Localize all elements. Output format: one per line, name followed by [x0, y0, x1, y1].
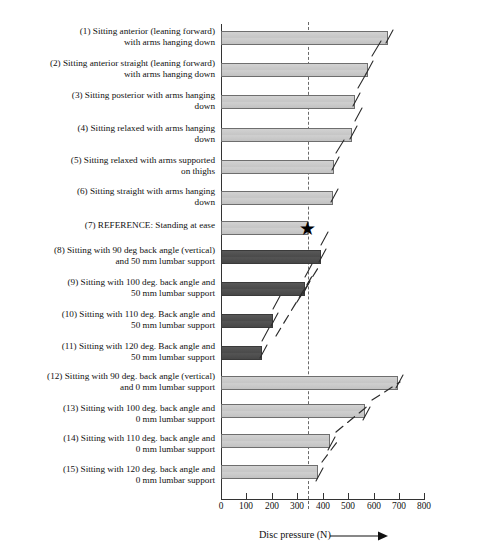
x-tick-label-800: 800	[409, 501, 439, 511]
bar-8[interactable]	[221, 250, 321, 264]
bar-row: (5) Sitting relaxed with arms supported …	[0, 155, 478, 185]
x-tick-100	[246, 493, 247, 499]
bar-label-11: (11) Sitting with 120 deg. Back angle an…	[4, 341, 215, 362]
bar-label-5-line2: on thighs	[4, 166, 215, 177]
x-tick-700	[399, 493, 400, 499]
bar-label-15: (15) Sitting with 120 deg. back angle an…	[4, 464, 215, 485]
bar-label-12-line1: (12) Sitting with 90 deg. back angle (ve…	[4, 371, 215, 382]
bar-14[interactable]	[221, 434, 330, 448]
bar-label-11-line1: (11) Sitting with 120 deg. Back angle an…	[4, 341, 215, 352]
bar-label-6-line1: (6) Sitting straight with arms hanging	[4, 186, 215, 197]
bar-row: (13) Sitting with 100 deg. back angle an…	[0, 403, 478, 433]
bar-label-15-line2: 0 mm lumbar support	[4, 475, 215, 486]
bar-row: (14) Sitting with 110 deg. back angle an…	[0, 433, 478, 463]
bar-label-4: (4) Sitting relaxed with arms hanging do…	[4, 123, 215, 144]
bar-label-5: (5) Sitting relaxed with arms supported …	[4, 155, 215, 176]
bar-label-13: (13) Sitting with 100 deg. back angle an…	[4, 403, 215, 424]
bar-row: (11) Sitting with 120 deg. Back angle an…	[0, 341, 478, 371]
bar-label-6: (6) Sitting straight with arms hanging d…	[4, 186, 215, 207]
reference-star-icon: ★	[299, 219, 316, 238]
bar-label-6-line2: down	[4, 197, 215, 208]
bar-row: (3) Sitting posterior with arms hanging …	[0, 90, 478, 120]
x-tick-600	[374, 493, 375, 499]
bar-label-13-line1: (13) Sitting with 100 deg. back angle an…	[4, 403, 215, 414]
bar-6[interactable]	[221, 191, 333, 205]
bar-label-8-line2: and 50 mm lumbar support	[4, 256, 215, 267]
bar-label-11-line2: 50 mm lumbar support	[4, 352, 215, 363]
bar-label-5-line1: (5) Sitting relaxed with arms supported	[4, 155, 215, 166]
bar-label-1: (1) Sitting anterior (leaning forward) w…	[4, 26, 215, 47]
bar-label-4-line2: down	[4, 134, 215, 145]
bar-row: (9) Sitting with 100 deg. back angle and…	[0, 277, 478, 307]
bar-label-14-line1: (14) Sitting with 110 deg. back angle an…	[4, 433, 215, 444]
x-tick-800	[424, 493, 425, 499]
bar-row: (15) Sitting with 120 deg. back angle an…	[0, 464, 478, 494]
bar-label-8-line1: (8) Sitting with 90 deg back angle (vert…	[4, 245, 215, 256]
bar-label-7-line1: (7) REFERENCE: Standing at ease	[4, 220, 215, 231]
bar-label-9-line1: (9) Sitting with 100 deg. back angle and	[4, 277, 215, 288]
x-tick-300	[297, 493, 298, 499]
bar-2[interactable]	[221, 63, 368, 77]
bar-13[interactable]	[221, 404, 365, 418]
bar-label-3-line2: down	[4, 101, 215, 112]
bar-label-4-line1: (4) Sitting relaxed with arms hanging	[4, 123, 215, 134]
bar-label-15-line1: (15) Sitting with 120 deg. back angle an…	[4, 464, 215, 475]
bar-label-14: (14) Sitting with 110 deg. back angle an…	[4, 433, 215, 454]
bar-label-10: (10) Sitting with 110 deg. Back angle an…	[4, 309, 215, 330]
bar-label-2-line2: with arms hanging down	[4, 69, 215, 80]
bar-label-13-line2: 0 mm lumbar support	[4, 414, 215, 425]
x-axis-title: Disc pressure (N)	[259, 529, 331, 540]
bar-label-7: (7) REFERENCE: Standing at ease	[4, 220, 215, 231]
bar-3[interactable]	[221, 95, 355, 109]
x-tick-0	[221, 493, 222, 499]
bar-label-1-line2: with arms hanging down	[4, 37, 215, 48]
bar-label-3: (3) Sitting posterior with arms hanging …	[4, 90, 215, 111]
bar-10[interactable]	[221, 314, 273, 328]
bar-15[interactable]	[221, 465, 318, 479]
bar-row: (6) Sitting straight with arms hanging d…	[0, 186, 478, 216]
chart-page: (1) Sitting anterior (leaning forward) w…	[0, 0, 478, 558]
bar-label-8: (8) Sitting with 90 deg back angle (vert…	[4, 245, 215, 266]
bar-1[interactable]	[221, 31, 388, 45]
bar-label-2: (2) Sitting anterior straight (leaning f…	[4, 58, 215, 79]
bar-label-10-line2: 50 mm lumbar support	[4, 320, 215, 331]
x-axis-line	[221, 499, 425, 500]
bar-row: (10) Sitting with 110 deg. Back angle an…	[0, 309, 478, 339]
bar-label-1-line1: (1) Sitting anterior (leaning forward)	[4, 26, 215, 37]
bar-label-3-line1: (3) Sitting posterior with arms hanging	[4, 90, 215, 101]
bar-11[interactable]	[221, 346, 262, 360]
bar-9[interactable]	[221, 282, 305, 296]
bar-row: (2) Sitting anterior straight (leaning f…	[0, 58, 478, 88]
bar-chart: (1) Sitting anterior (leaning forward) w…	[0, 0, 478, 558]
bar-label-2-line1: (2) Sitting anterior straight (leaning f…	[4, 58, 215, 69]
bar-7[interactable]	[221, 221, 308, 235]
bar-5[interactable]	[221, 160, 334, 174]
bar-label-12: (12) Sitting with 90 deg. back angle (ve…	[4, 371, 215, 392]
bar-row: (1) Sitting anterior (leaning forward) w…	[0, 26, 478, 56]
bar-label-14-line2: 0 mm lumbar support	[4, 444, 215, 455]
bar-label-10-line1: (10) Sitting with 110 deg. Back angle an…	[4, 309, 215, 320]
x-axis-arrow-icon	[330, 528, 390, 544]
x-tick-500	[348, 493, 349, 499]
bar-row: (12) Sitting with 90 deg. back angle (ve…	[0, 371, 478, 401]
bar-4[interactable]	[221, 128, 352, 142]
bar-row: (8) Sitting with 90 deg back angle (vert…	[0, 245, 478, 275]
bar-label-12-line2: and 0 mm lumbar support	[4, 382, 215, 393]
bar-label-9: (9) Sitting with 100 deg. back angle and…	[4, 277, 215, 298]
bar-row: (4) Sitting relaxed with arms hanging do…	[0, 123, 478, 153]
x-tick-400	[323, 493, 324, 499]
bar-label-9-line2: 50 mm lumbar support	[4, 288, 215, 299]
bar-12[interactable]	[221, 376, 398, 390]
x-tick-200	[272, 493, 273, 499]
